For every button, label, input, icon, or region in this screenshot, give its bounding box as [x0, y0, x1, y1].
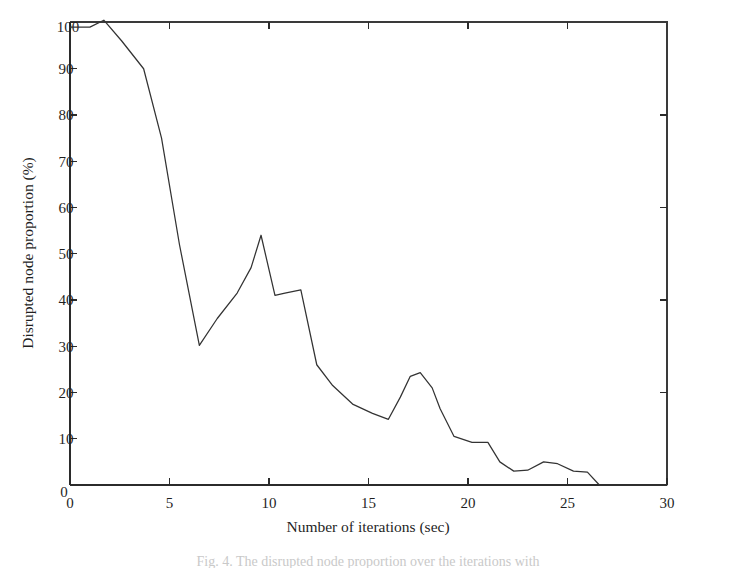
- plot-background: [70, 22, 667, 485]
- line-chart: 0 10 20 30 40 50 60 70 80 90 100 0 5 10 …: [0, 0, 729, 568]
- x-tick-label: 20: [461, 495, 476, 511]
- figure-caption: Fig. 4. The disrupted node proportion ov…: [196, 554, 539, 568]
- x-tick-label: 30: [660, 495, 675, 511]
- x-axis-tick-labels: 0 5 10 15 20 25 30: [66, 495, 674, 511]
- y-tick-label: 50: [59, 246, 74, 262]
- x-tick-label: 15: [361, 495, 376, 511]
- y-tick-label: 80: [59, 107, 74, 123]
- y-tick-label: 60: [59, 200, 74, 216]
- y-tick-label: 30: [59, 339, 74, 355]
- x-tick-label: 0: [66, 495, 74, 511]
- y-tick-label: 10: [59, 431, 74, 447]
- y-axis-title: Disrupted node proportion (%): [19, 157, 37, 349]
- y-tick-label: 40: [59, 292, 74, 308]
- y-tick-label: 70: [59, 154, 74, 170]
- x-tick-label: 10: [262, 495, 277, 511]
- x-tick-label: 25: [560, 495, 575, 511]
- y-tick-label: 20: [59, 385, 74, 401]
- figure-container: 0 10 20 30 40 50 60 70 80 90 100 0 5 10 …: [0, 0, 729, 568]
- x-axis-title: Number of iterations (sec): [286, 518, 449, 536]
- y-tick-label: 90: [59, 61, 74, 77]
- x-tick-label: 5: [166, 495, 174, 511]
